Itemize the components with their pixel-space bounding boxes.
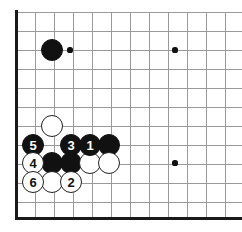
- stone-black-move-1: 1: [79, 134, 101, 156]
- goban-grid: [0, 0, 242, 232]
- go-board-diagram: 531462: [0, 0, 242, 232]
- stone-white-move-6: 6: [22, 171, 44, 193]
- stone-move-number: 5: [29, 138, 36, 151]
- stone-white-move-2: 2: [60, 171, 82, 193]
- stone-move-number: 3: [67, 138, 74, 151]
- star-point-2-icon: [172, 47, 177, 52]
- star-point-3-icon: [172, 160, 177, 165]
- stone-move-number: 4: [29, 156, 36, 169]
- stone-black-hoshi: [41, 39, 63, 61]
- star-point-1-icon: [67, 47, 72, 52]
- stone-move-number: 6: [29, 175, 36, 188]
- stone-move-number: 1: [86, 138, 93, 151]
- stone-move-number: 2: [67, 175, 74, 188]
- stone-white-upper: [41, 115, 63, 137]
- stone-white-mid-b: [98, 152, 120, 174]
